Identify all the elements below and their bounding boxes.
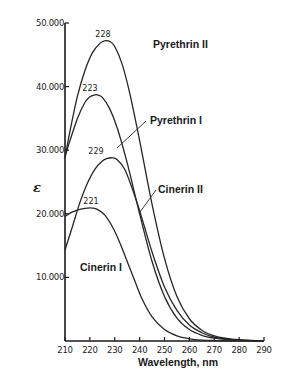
peak-label-cinerin-ii: 229 [88, 147, 103, 156]
peak-label-pyrethrin-i: 223 [82, 84, 97, 93]
x-tick-label: 240 [132, 345, 147, 355]
x-tick-label: 210 [57, 345, 72, 355]
y-tick-label: 10.000 [36, 272, 64, 282]
y-axis-label: ε [33, 180, 41, 195]
series-label-pyrethrin-i: Pyrethrin I [150, 114, 202, 126]
uv-spectrum-chart: 10.00020.00030.00040.00050.000 210220230… [0, 0, 288, 386]
annotations: 228Pyrethrin II223Pyrethrin I229Cinerin … [80, 30, 208, 273]
peak-label-pyrethrin-ii: 228 [95, 30, 110, 39]
y-tick-label: 50.000 [36, 18, 64, 28]
y-tick-label: 30.000 [36, 145, 64, 155]
y-tick-label: 40.000 [36, 82, 64, 92]
peak-label-cinerin-i: 221 [83, 197, 98, 206]
curve-cinerin-i [65, 208, 264, 341]
x-tick-label: 220 [82, 345, 97, 355]
series-label-cinerin-i: Cinerin I [80, 261, 122, 273]
leader-line-pyrethrin-i [117, 121, 146, 148]
y-ticks: 10.00020.00030.00040.00050.000 [36, 18, 69, 282]
cut-off-caption [0, 380, 288, 386]
series-label-pyrethrin-ii: Pyrethrin II [153, 38, 208, 50]
x-tick-label: 230 [107, 345, 122, 355]
curve-pyrethrin-i [65, 95, 264, 341]
series-label-cinerin-ii: Cinerin II [158, 183, 203, 195]
x-tick-label: 250 [157, 345, 172, 355]
x-axis-label: Wavelength, nm [138, 356, 218, 368]
x-tick-label: 260 [182, 345, 197, 355]
x-tick-label: 270 [207, 345, 222, 355]
axes [65, 23, 264, 341]
y-tick-label: 20.000 [36, 209, 64, 219]
x-tick-label: 280 [231, 345, 246, 355]
x-tick-label: 290 [256, 345, 271, 355]
